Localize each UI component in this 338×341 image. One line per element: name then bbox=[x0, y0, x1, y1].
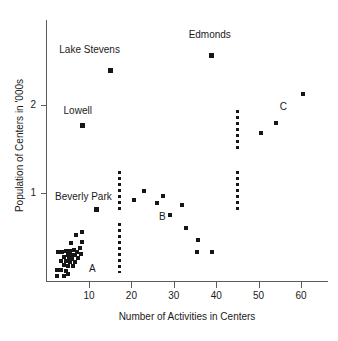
x-tick-mark bbox=[301, 282, 302, 288]
point-label: Lowell bbox=[64, 106, 92, 116]
data-point bbox=[195, 250, 199, 254]
data-point bbox=[59, 268, 63, 272]
data-point bbox=[69, 241, 73, 245]
x-tick-mark bbox=[131, 282, 132, 288]
data-point bbox=[71, 264, 75, 268]
x-tick-mark bbox=[89, 282, 90, 288]
x-tick-label: 10 bbox=[77, 291, 101, 301]
data-point bbox=[78, 246, 82, 250]
scatter-plot-figure: 12 102030405060 EdmondsLake StevensLowel… bbox=[0, 0, 338, 341]
dashed-divider-line bbox=[236, 110, 239, 151]
data-point bbox=[55, 268, 59, 272]
x-tick-label: 20 bbox=[119, 291, 143, 301]
data-point bbox=[184, 226, 188, 230]
data-point bbox=[155, 201, 159, 205]
data-point bbox=[259, 131, 263, 135]
data-point bbox=[301, 92, 305, 96]
data-point bbox=[180, 203, 184, 207]
point-label: Edmonds bbox=[189, 30, 231, 40]
dashed-divider-line bbox=[118, 171, 121, 211]
data-point bbox=[66, 272, 70, 276]
group-label: B bbox=[159, 212, 166, 222]
data-point bbox=[80, 230, 84, 234]
data-point bbox=[62, 274, 66, 278]
data-point bbox=[168, 213, 172, 217]
dashed-divider-line bbox=[236, 171, 239, 211]
data-point bbox=[142, 189, 146, 193]
data-point bbox=[80, 240, 84, 244]
x-tick-mark bbox=[174, 282, 175, 288]
dashed-divider-line bbox=[118, 223, 121, 273]
data-point bbox=[274, 121, 278, 125]
y-tick-mark bbox=[41, 105, 47, 106]
data-point bbox=[132, 198, 136, 202]
point-label: Beverly Park bbox=[55, 192, 112, 202]
data-point bbox=[196, 238, 200, 242]
data-point bbox=[74, 233, 78, 237]
x-tick-label: 40 bbox=[204, 291, 228, 301]
data-point bbox=[80, 123, 85, 128]
data-point bbox=[66, 264, 70, 268]
data-point bbox=[79, 252, 83, 256]
x-tick-label: 50 bbox=[247, 291, 271, 301]
x-axis-title: Number of Activities in Centers bbox=[46, 311, 328, 322]
data-point bbox=[94, 207, 99, 212]
y-axis-line bbox=[46, 20, 47, 282]
data-point bbox=[209, 53, 214, 58]
x-tick-mark bbox=[259, 282, 260, 288]
data-point bbox=[55, 274, 59, 278]
x-tick-label: 60 bbox=[289, 291, 313, 301]
y-axis-title: Population of Centers in '000s bbox=[14, 26, 25, 266]
y-tick-label: 1 bbox=[24, 188, 36, 198]
point-label: Lake Stevens bbox=[59, 45, 120, 55]
data-point bbox=[161, 194, 165, 198]
data-point bbox=[108, 68, 113, 73]
y-tick-mark bbox=[41, 193, 47, 194]
x-tick-mark bbox=[216, 282, 217, 288]
data-point bbox=[210, 250, 214, 254]
data-point bbox=[59, 259, 63, 263]
group-label: A bbox=[89, 264, 96, 274]
group-label: C bbox=[280, 102, 287, 112]
y-tick-label: 2 bbox=[24, 100, 36, 110]
x-tick-label: 30 bbox=[162, 291, 186, 301]
